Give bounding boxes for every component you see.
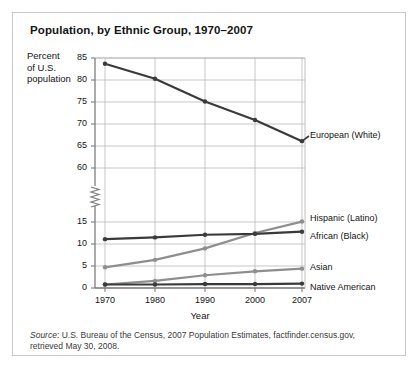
series-label-european-white: European (White) — [310, 130, 381, 140]
data-point — [153, 235, 157, 239]
data-point — [300, 219, 304, 223]
y-axis-tick-0: 0 — [65, 282, 87, 292]
data-point — [300, 229, 304, 233]
series-label-african-black: African (Black) — [310, 231, 369, 241]
x-axis-tick-1990: 1990 — [185, 295, 225, 305]
x-axis-tick-1980: 1980 — [135, 295, 175, 305]
data-point — [300, 281, 304, 285]
data-point — [253, 232, 257, 236]
data-point — [253, 269, 257, 273]
data-point — [203, 246, 207, 250]
data-point — [153, 282, 157, 286]
data-point — [103, 237, 107, 241]
data-point — [203, 282, 207, 286]
data-point — [253, 282, 257, 286]
x-axis-label: Year — [150, 310, 250, 321]
y-axis-tick-10: 10 — [65, 238, 87, 248]
y-axis-tick-80: 80 — [65, 74, 87, 84]
source-prefix: Source — [30, 330, 57, 340]
y-axis-tick-5: 5 — [65, 260, 87, 270]
data-point — [203, 99, 207, 103]
data-point — [153, 76, 157, 80]
series-label-hispanic-latino: Hispanic (Latino) — [310, 213, 378, 223]
x-axis-tick-2007: 2007 — [282, 295, 322, 305]
x-axis-tick-1970: 1970 — [85, 295, 125, 305]
y-axis-tick-70: 70 — [65, 118, 87, 128]
y-axis-tick-15: 15 — [65, 216, 87, 226]
data-point — [103, 62, 107, 66]
source-text: : U.S. Bureau of the Census, 2007 Popula… — [30, 330, 355, 351]
series-label-native-american: Native American — [310, 282, 376, 292]
data-point — [300, 266, 304, 270]
data-point — [103, 282, 107, 286]
y-axis-tick-75: 75 — [65, 96, 87, 106]
series-line-1 — [105, 222, 302, 268]
source-note: Source: U.S. Bureau of the Census, 2007 … — [30, 330, 360, 352]
data-point — [153, 258, 157, 262]
data-point — [203, 273, 207, 277]
data-point — [103, 265, 107, 269]
data-point — [253, 118, 257, 122]
series-label-asian: Asian — [310, 262, 333, 272]
data-point — [203, 233, 207, 237]
x-axis-tick-2000: 2000 — [235, 295, 275, 305]
y-axis-tick-60: 60 — [65, 162, 87, 172]
y-axis-tick-85: 85 — [65, 52, 87, 62]
y-axis-tick-65: 65 — [65, 140, 87, 150]
